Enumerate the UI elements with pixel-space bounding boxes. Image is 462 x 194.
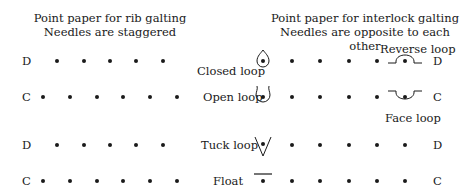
needle-dot [108, 59, 112, 63]
needle-dot [290, 95, 294, 99]
needle-dot [290, 59, 294, 63]
needle-dot [121, 95, 125, 99]
needle-dot [290, 179, 294, 183]
needle-dot [148, 95, 152, 99]
right-row-label-c1: C [433, 91, 442, 103]
left-row-label-c2: C [22, 175, 31, 187]
needle-dot [95, 179, 99, 183]
needle-dot [41, 95, 45, 99]
tuck-loop-label: Tuck loop [201, 139, 258, 151]
needle-dot [403, 143, 407, 147]
float-label: Float [213, 175, 243, 187]
needle-dot [82, 143, 86, 147]
needle-dot [318, 143, 322, 147]
needle-dot [161, 143, 165, 147]
closed-loop-icon [253, 48, 273, 70]
left-title-line2: Needles are staggered [20, 25, 200, 39]
needle-dot [82, 59, 86, 63]
needle-dot [375, 95, 379, 99]
needle-dot [375, 59, 379, 63]
needle-dot [41, 179, 45, 183]
right-row-label-d2: D [433, 139, 442, 151]
needle-dot [375, 179, 379, 183]
needle-dot [347, 95, 351, 99]
right-row-label-c2: C [433, 175, 442, 187]
needle-dot [290, 143, 294, 147]
needle-dot [134, 59, 138, 63]
face-loop-icon [387, 89, 423, 103]
right-title-line1: Point paper for interlock galting [265, 11, 462, 25]
left-row-label-c1: C [22, 91, 31, 103]
needle-dot [55, 59, 59, 63]
right-row-label-d1: D [433, 55, 442, 67]
left-row-label-d2: D [22, 139, 31, 151]
needle-dot [108, 143, 112, 147]
needle-dot [68, 179, 72, 183]
needle-dot [68, 95, 72, 99]
needle-dot [55, 143, 59, 147]
needle-dot [347, 179, 351, 183]
tuck-loop-icon [253, 136, 273, 158]
left-title-line1: Point paper for rib galting [20, 11, 200, 25]
needle-dot [347, 59, 351, 63]
needle-dot [121, 179, 125, 183]
needle-dot [148, 179, 152, 183]
needle-dot [161, 59, 165, 63]
left-panel-title: Point paper for rib galting Needles are … [20, 11, 200, 39]
needle-dot [175, 95, 179, 99]
needle-dot [318, 95, 322, 99]
needle-dot [347, 143, 351, 147]
needle-dot [95, 95, 99, 99]
needle-dot [175, 179, 179, 183]
reverse-loop-icon [387, 51, 423, 65]
needle-dot [375, 143, 379, 147]
needle-dot [403, 179, 407, 183]
float-icon [253, 173, 273, 185]
needle-dot [318, 59, 322, 63]
face-loop-label: Face loop [385, 112, 441, 124]
left-row-label-d1: D [22, 55, 31, 67]
needle-dot [318, 179, 322, 183]
open-loop-icon [253, 84, 273, 104]
needle-dot [134, 143, 138, 147]
